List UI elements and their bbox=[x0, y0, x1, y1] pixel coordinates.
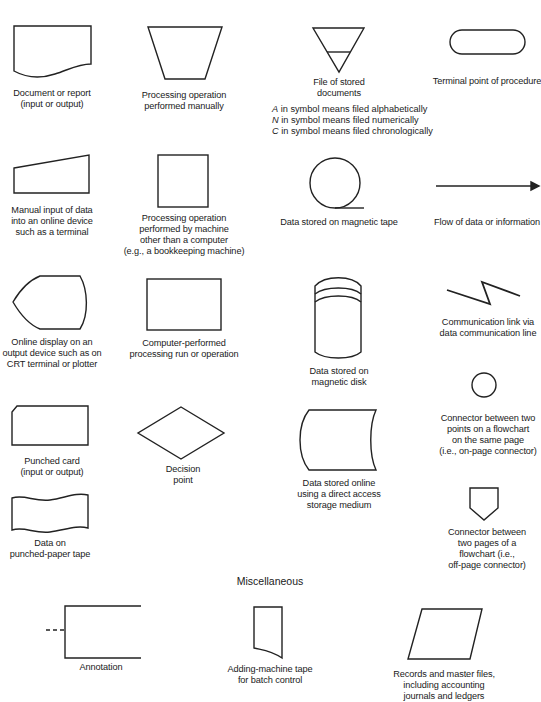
label-line: Flow of data or information bbox=[434, 217, 540, 228]
label-line: Processing operation bbox=[124, 213, 245, 224]
label-on-page-connector: Connector between two points on a flowch… bbox=[439, 413, 537, 457]
label-line: punched-paper tape bbox=[10, 549, 90, 560]
label-line: (i.e., on-page connector) bbox=[439, 446, 537, 457]
punched-card-symbol bbox=[12, 406, 88, 445]
section-heading-miscellaneous: Miscellaneous bbox=[237, 575, 304, 587]
label-line: including accounting bbox=[393, 680, 495, 691]
label-line: into an online device bbox=[11, 216, 93, 227]
note-text: in symbol means filed alphabetically bbox=[281, 104, 428, 114]
note-alpha: A in symbol means filed alphabetically bbox=[272, 104, 433, 115]
label-line: Processing operation bbox=[142, 90, 226, 101]
magnetic-disk-symbol bbox=[315, 278, 361, 358]
label-line: Decision bbox=[166, 464, 200, 475]
label-line: flowchart (i.e., bbox=[448, 549, 526, 560]
label-line: Online display on an bbox=[2, 337, 101, 348]
note-letter: A bbox=[272, 104, 278, 114]
note-letter: C bbox=[272, 126, 279, 136]
label-line: Data stored on magnetic tape bbox=[280, 217, 398, 228]
label-display: Online display on an output device such … bbox=[2, 337, 101, 370]
label-line: Terminal point of procedure bbox=[433, 76, 541, 87]
decision-symbol bbox=[138, 407, 224, 459]
file-symbol bbox=[313, 28, 364, 72]
label-communication-link: Communication link via data communicatio… bbox=[440, 317, 537, 339]
label-line: storage medium bbox=[297, 500, 381, 511]
online-storage-symbol bbox=[300, 410, 376, 470]
label-line: (input or output) bbox=[20, 467, 83, 478]
label-line: other than a computer bbox=[124, 235, 245, 246]
note-letter: N bbox=[272, 115, 279, 125]
label-line: magnetic disk bbox=[310, 377, 369, 388]
manual-input-symbol bbox=[14, 155, 89, 193]
label-line: data communication line bbox=[440, 328, 537, 339]
label-line: (e.g., a bookkeeping machine) bbox=[124, 246, 245, 257]
label-line: Connector between bbox=[448, 527, 526, 538]
note-chrono: C in symbol means filed chronologically bbox=[272, 126, 433, 137]
label-adding-machine-tape: Adding-machine tape for batch control bbox=[228, 664, 313, 686]
label-punched-tape: Data on punched-paper tape bbox=[10, 538, 90, 560]
label-auxiliary-operation: Processing operation performed by machin… bbox=[124, 213, 245, 257]
label-magnetic-tape: Data stored on magnetic tape bbox=[280, 217, 398, 228]
label-line: Connector between two bbox=[439, 413, 537, 424]
label-magnetic-disk: Data stored on magnetic disk bbox=[310, 366, 369, 388]
file-notes: A in symbol means filed alphabetically N… bbox=[272, 104, 433, 137]
communication-link-symbol bbox=[447, 282, 520, 304]
label-line: Document or report bbox=[13, 88, 90, 99]
label-line: Data stored online bbox=[297, 478, 381, 489]
label-line: processing run or operation bbox=[129, 349, 238, 360]
flow-arrow-symbol bbox=[436, 182, 539, 190]
label-line: Punched card bbox=[20, 456, 83, 467]
magnetic-tape-symbol bbox=[310, 158, 364, 208]
label-line: using a direct access bbox=[297, 489, 381, 500]
label-line: point bbox=[166, 475, 200, 486]
label-line: Computer-performed bbox=[129, 338, 238, 349]
label-terminal: Terminal point of procedure bbox=[433, 76, 541, 87]
label-line: off-page connector) bbox=[448, 560, 526, 571]
label-off-page-connector: Connector between two pages of a flowcha… bbox=[448, 527, 526, 571]
label-line: File of stored bbox=[313, 77, 365, 88]
manual-operation-symbol bbox=[148, 27, 222, 79]
label-decision: Decision point bbox=[166, 464, 200, 486]
punched-tape-symbol bbox=[12, 494, 88, 532]
label-line: documents bbox=[313, 88, 365, 99]
label-line: Data on bbox=[10, 538, 90, 549]
note-text: in symbol means filed numerically bbox=[281, 115, 418, 125]
document-symbol bbox=[14, 26, 91, 77]
off-page-connector-symbol bbox=[470, 488, 498, 520]
label-document: Document or report (input or output) bbox=[13, 88, 90, 110]
label-line: Adding-machine tape bbox=[228, 664, 313, 675]
label-line: such as a terminal bbox=[11, 227, 93, 238]
label-line: Communication link via bbox=[440, 317, 537, 328]
label-manual-operation: Processing operation performed manually bbox=[142, 90, 226, 112]
label-line: two pages of a bbox=[448, 538, 526, 549]
auxiliary-operation-symbol bbox=[158, 155, 208, 207]
on-page-connector-symbol bbox=[472, 373, 496, 397]
label-line: journals and ledgers bbox=[393, 691, 495, 702]
label-line: for batch control bbox=[228, 675, 313, 686]
label-process: Computer-performed processing run or ope… bbox=[129, 338, 238, 360]
label-line: Manual input of data bbox=[11, 205, 93, 216]
note-text: in symbol means filed chronologically bbox=[281, 126, 433, 136]
records-symbol bbox=[408, 609, 482, 659]
label-line: points on a flowchart bbox=[439, 424, 537, 435]
process-symbol bbox=[147, 279, 221, 330]
terminal-symbol bbox=[450, 30, 525, 54]
label-annotation: Annotation bbox=[80, 662, 123, 673]
label-line: on the same page bbox=[439, 435, 537, 446]
label-flow: Flow of data or information bbox=[434, 217, 540, 228]
label-line: performed by machine bbox=[124, 224, 245, 235]
label-line: Records and master files, bbox=[393, 669, 495, 680]
label-file: File of stored documents bbox=[313, 77, 365, 99]
label-line: performed manually bbox=[142, 101, 226, 112]
label-line: (input or output) bbox=[13, 99, 90, 110]
label-manual-input: Manual input of data into an online devi… bbox=[11, 205, 93, 238]
note-numeric: N in symbol means filed numerically bbox=[272, 115, 433, 126]
label-line: Data stored on bbox=[310, 366, 369, 377]
adding-machine-tape-symbol bbox=[254, 607, 282, 658]
label-line: Annotation bbox=[80, 662, 123, 673]
label-records: Records and master files, including acco… bbox=[393, 669, 495, 702]
annotation-symbol bbox=[46, 606, 141, 658]
label-line: CRT terminal or plotter bbox=[2, 359, 101, 370]
display-symbol bbox=[13, 276, 86, 329]
label-online-storage: Data stored online using a direct access… bbox=[297, 478, 381, 511]
label-punched-card: Punched card (input or output) bbox=[20, 456, 83, 478]
